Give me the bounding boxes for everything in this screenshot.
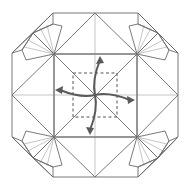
flap-left-diamond xyxy=(12,54,54,137)
arrow-up-icon xyxy=(94,56,104,95)
arrow-down-icon xyxy=(86,95,96,135)
flap-top-diamond xyxy=(54,13,137,54)
arrow-right-icon xyxy=(95,94,135,104)
origami-diagram xyxy=(0,0,190,190)
arrow-left-icon xyxy=(55,86,95,96)
flap-right-diamond xyxy=(137,54,178,137)
flap-bottom-diamond xyxy=(54,137,137,177)
